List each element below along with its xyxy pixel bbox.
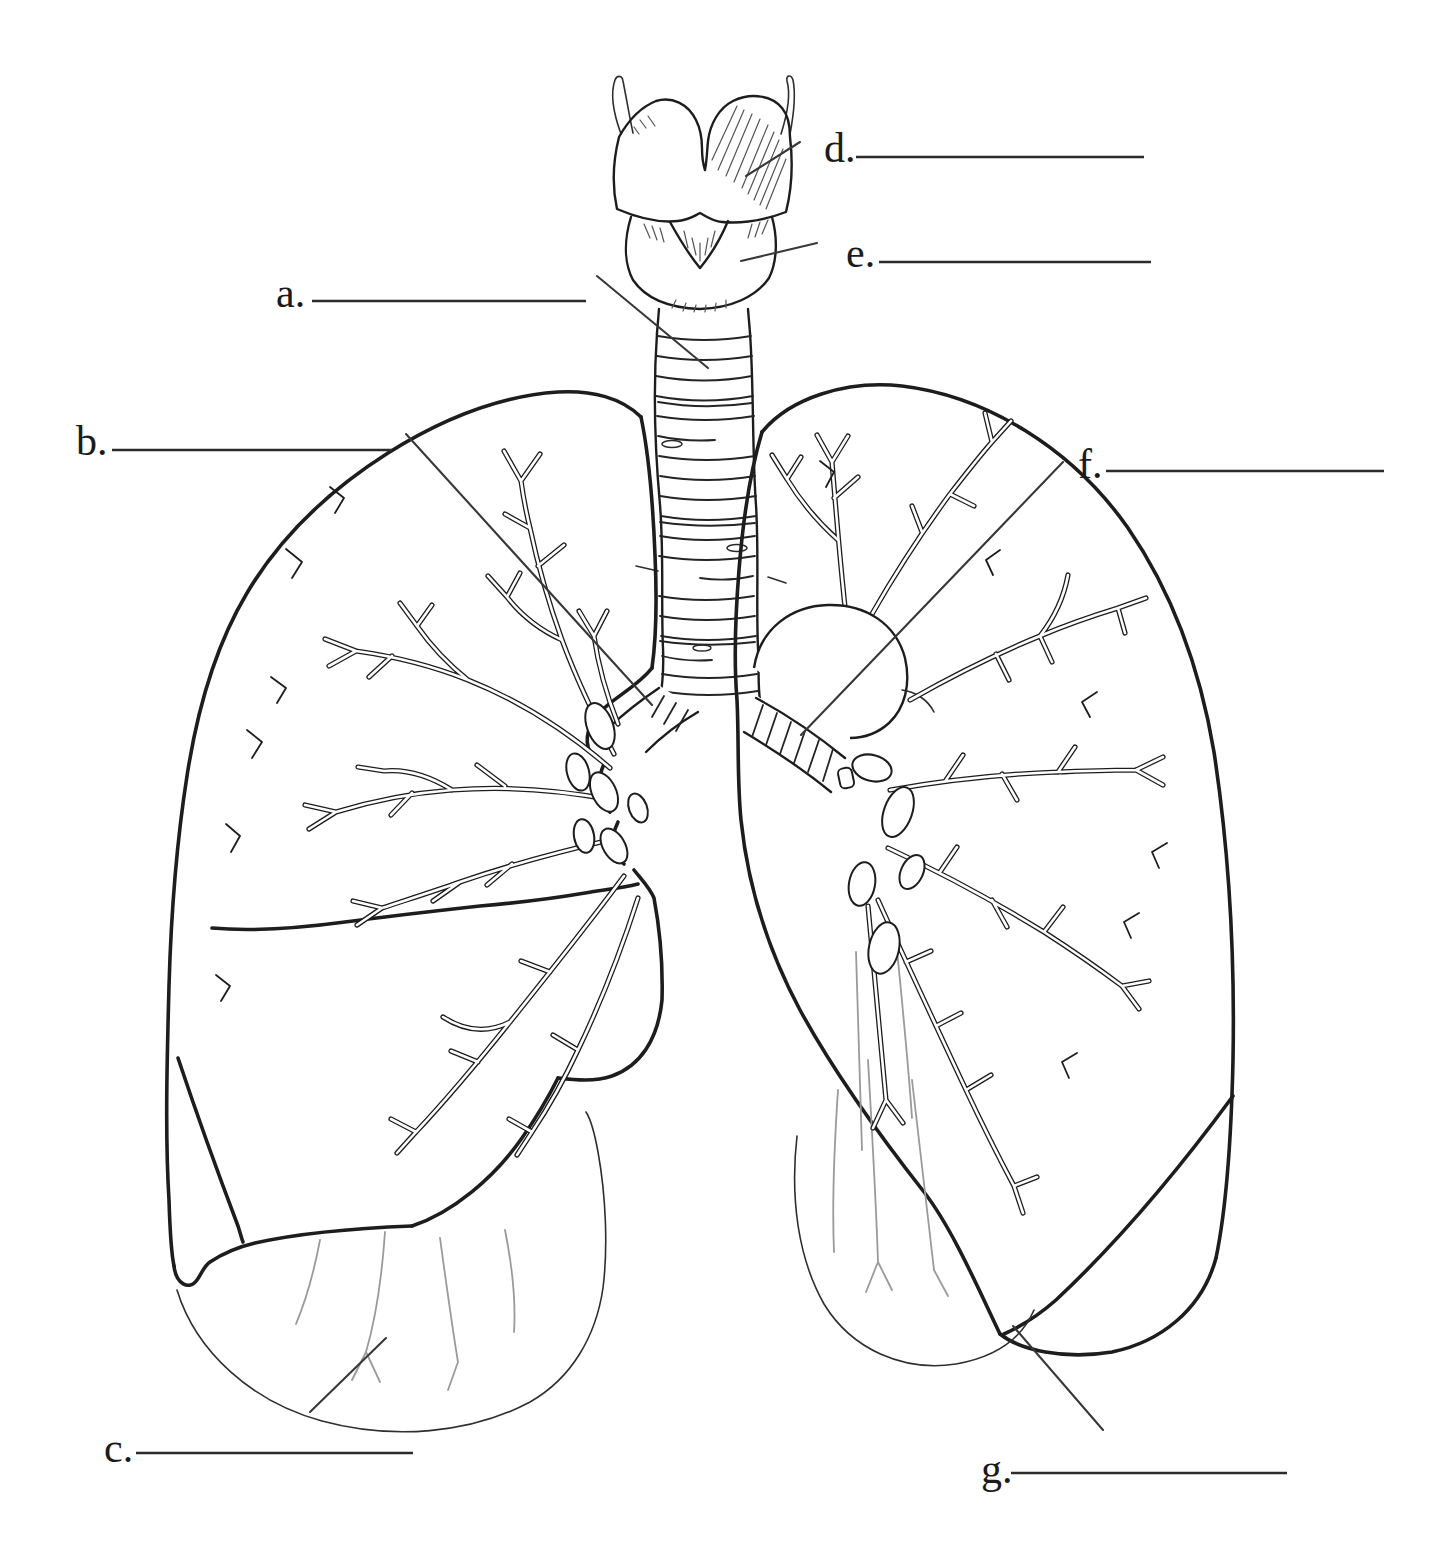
superior-horn-left-icon — [613, 76, 633, 134]
lung-diagram: a. b. c. d. e. f. g. — [0, 0, 1454, 1553]
thyroid-cartilage — [614, 96, 792, 222]
right-horizontal-fissure — [212, 884, 638, 930]
label-a: a. — [276, 270, 708, 368]
label-a-letter: a. — [276, 270, 305, 316]
label-d-letter: d. — [824, 125, 856, 171]
left-lung-bottom-edge — [1000, 1258, 1216, 1355]
label-e: e. — [741, 230, 1151, 276]
label-b-leader-line — [406, 434, 652, 705]
right-lung — [167, 392, 662, 1432]
label-f-letter: f. — [1078, 441, 1103, 487]
label-c: c. — [104, 1338, 413, 1471]
label-f-leader-line — [801, 462, 1063, 735]
label-d: d. — [746, 125, 1144, 176]
label-a-leader-line — [597, 276, 708, 368]
label-g-letter: g. — [981, 1446, 1013, 1492]
label-b: b. — [76, 418, 652, 705]
right-basal-vessels — [296, 1230, 515, 1390]
left-bronchial-tree-upper — [772, 413, 1011, 616]
thyroid-lamina-hatching — [634, 106, 786, 209]
left-lung — [735, 385, 1233, 1366]
right-bronchial-tree — [216, 451, 638, 1155]
right-lower-lobe-base — [177, 1112, 606, 1432]
label-g: g. — [981, 1326, 1287, 1492]
label-g-leader-line — [1013, 1326, 1103, 1430]
label-c-leader-line — [310, 1338, 386, 1412]
label-b-letter: b. — [76, 418, 108, 464]
paratracheal-dash-right — [768, 577, 786, 583]
label-e-letter: e. — [846, 230, 875, 276]
cricoid-cartilage — [626, 217, 776, 309]
worksheet-page: a. b. c. d. e. f. g. — [0, 0, 1454, 1553]
label-c-letter: c. — [104, 1425, 133, 1471]
right-lung-bottom-edge — [174, 1226, 412, 1285]
labels: a. b. c. d. e. f. g. — [76, 125, 1384, 1492]
right-oblique-fissure — [178, 1058, 243, 1242]
left-bronchial-tree — [820, 461, 1167, 1213]
right-lung-medial-border-upper — [641, 417, 656, 668]
superior-horn-right-icon — [781, 76, 794, 134]
label-e-leader-line — [741, 243, 817, 261]
left-lung-outline — [762, 385, 1233, 1258]
right-lung-outline — [167, 392, 641, 1266]
left-basal-vessels — [833, 940, 948, 1296]
first-tracheal-ring — [657, 309, 750, 333]
right-lung-lower-lobe-margin — [412, 1078, 558, 1226]
tracheal-cartilage-rings — [656, 336, 758, 695]
larynx — [613, 76, 795, 333]
cricothyroid-membrane — [644, 220, 768, 268]
